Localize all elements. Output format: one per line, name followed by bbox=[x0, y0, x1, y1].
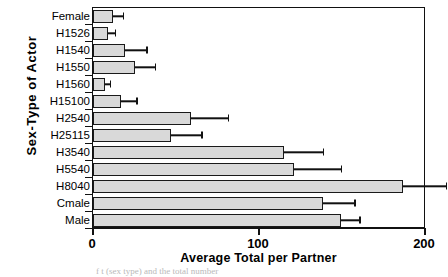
error-bar-male bbox=[341, 220, 359, 221]
y-axis-label-h25115: H25115 bbox=[51, 128, 90, 142]
error-cap-h1550 bbox=[155, 64, 156, 71]
bar-h1550 bbox=[93, 61, 135, 74]
table-row bbox=[93, 146, 424, 159]
y-tick-7 bbox=[85, 143, 92, 144]
table-row bbox=[93, 163, 424, 176]
error-cap-cmale bbox=[354, 200, 355, 207]
y-axis-label-h1526: H1526 bbox=[56, 26, 90, 40]
y-tick-9 bbox=[85, 177, 92, 178]
y-tick-6 bbox=[85, 126, 92, 127]
table-row bbox=[93, 129, 424, 142]
table-row bbox=[93, 61, 424, 74]
error-cap-h8040 bbox=[446, 183, 447, 190]
x-tick-label-200: 200 bbox=[404, 236, 444, 251]
table-row bbox=[93, 10, 424, 23]
y-axis-label-h3540: H3540 bbox=[56, 145, 90, 159]
table-row bbox=[93, 214, 424, 227]
y-axis-label-h5540: H5540 bbox=[56, 162, 90, 176]
error-bar-h1526 bbox=[108, 33, 115, 34]
bar-male bbox=[93, 214, 341, 227]
y-axis-label-cmale: Cmale bbox=[57, 196, 90, 210]
chart-figure: Sex-Type of Actor FemaleH1526H1540H1550H… bbox=[0, 0, 448, 277]
y-tick-2 bbox=[85, 58, 92, 59]
error-bar-h1550 bbox=[135, 67, 155, 68]
error-cap-h2540 bbox=[228, 115, 229, 122]
bar-cmale bbox=[93, 197, 323, 210]
y-tick-12 bbox=[85, 228, 92, 229]
y-axis-label-h1560: H1560 bbox=[56, 77, 90, 91]
x-tick-0 bbox=[92, 228, 94, 235]
bar-h2540 bbox=[93, 112, 191, 125]
error-bar-h15100 bbox=[121, 101, 136, 102]
bar-h25115 bbox=[93, 129, 171, 142]
error-bar-female bbox=[113, 16, 123, 17]
y-axis-label-h1540: H1540 bbox=[56, 43, 90, 57]
x-axis-title: Average Total per Partner bbox=[92, 251, 425, 265]
bar-series bbox=[93, 8, 424, 227]
error-cap-h3540 bbox=[323, 149, 324, 156]
bar-h1526 bbox=[93, 27, 108, 40]
table-row bbox=[93, 197, 424, 210]
bar-h3540 bbox=[93, 146, 284, 159]
y-tick-11 bbox=[85, 211, 92, 212]
bar-h1560 bbox=[93, 78, 105, 91]
error-cap-h5540 bbox=[341, 166, 342, 173]
error-bar-h1540 bbox=[125, 50, 147, 51]
bar-h15100 bbox=[93, 95, 121, 108]
y-axis-label-h15100: H15100 bbox=[50, 94, 90, 108]
table-row bbox=[93, 44, 424, 57]
table-row bbox=[93, 27, 424, 40]
bar-h5540 bbox=[93, 163, 294, 176]
y-tick-5 bbox=[85, 109, 92, 110]
error-bar-h3540 bbox=[284, 152, 322, 153]
bar-h8040 bbox=[93, 180, 403, 193]
error-bar-h2540 bbox=[191, 118, 228, 119]
y-axis-category-labels: FemaleH1526H1540H1550H1560H15100H2540H25… bbox=[22, 6, 90, 228]
table-row bbox=[93, 112, 424, 125]
table-row bbox=[93, 180, 424, 193]
figure-caption: f t (sex type) and the total number bbox=[96, 266, 448, 276]
y-tick-8 bbox=[85, 160, 92, 161]
x-tick-100 bbox=[258, 228, 260, 235]
y-tick-10 bbox=[85, 194, 92, 195]
y-axis-label-h8040: H8040 bbox=[56, 179, 90, 193]
error-bar-h8040 bbox=[403, 186, 446, 187]
y-tick-0 bbox=[85, 24, 92, 25]
error-bar-cmale bbox=[323, 203, 355, 204]
error-cap-h1560 bbox=[110, 81, 111, 88]
y-axis-label-h2540: H2540 bbox=[56, 111, 90, 125]
plot-area bbox=[92, 7, 425, 228]
y-tick-4 bbox=[85, 92, 92, 93]
y-axis-label-male: Male bbox=[65, 213, 90, 227]
table-row bbox=[93, 95, 424, 108]
error-cap-h1540 bbox=[146, 47, 147, 54]
x-tick-label-0: 0 bbox=[72, 236, 112, 251]
error-cap-h15100 bbox=[136, 98, 137, 105]
error-bar-h25115 bbox=[171, 135, 201, 136]
bar-female bbox=[93, 10, 113, 23]
error-bar-h5540 bbox=[294, 169, 341, 170]
y-tick-1 bbox=[85, 41, 92, 42]
y-axis-label-h1550: H1550 bbox=[56, 60, 90, 74]
error-cap-h1526 bbox=[115, 30, 116, 37]
y-axis-label-female: Female bbox=[52, 9, 90, 23]
y-tick-3 bbox=[85, 75, 92, 76]
error-cap-male bbox=[359, 217, 360, 224]
error-cap-female bbox=[123, 13, 124, 20]
table-row bbox=[93, 78, 424, 91]
x-tick-label-100: 100 bbox=[238, 236, 278, 251]
error-cap-h25115 bbox=[201, 132, 202, 139]
bar-h1540 bbox=[93, 44, 125, 57]
x-tick-200 bbox=[424, 228, 426, 235]
